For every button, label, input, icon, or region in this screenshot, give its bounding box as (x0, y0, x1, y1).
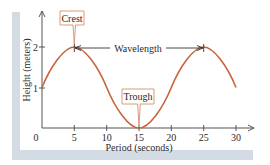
y-axis-label: Height (meters) (21, 38, 33, 101)
x-axis-label: Period (seconds) (106, 142, 173, 154)
x-tick-label: 30 (231, 132, 241, 143)
y-tick-label: 2 (33, 42, 38, 53)
y-tick-labels: 2 1 (33, 42, 38, 94)
wavelength-label: Wavelength (114, 43, 162, 54)
wavelength-indicator: Wavelength (74, 43, 203, 54)
wave-chart: 0 5 10 15 20 25 30 2 1 Period (seconds) … (0, 0, 270, 165)
crest-callout: Crest (60, 11, 84, 44)
y-tick-label: 1 (33, 83, 38, 94)
crest-label: Crest (61, 13, 82, 24)
trough-label: Trough (123, 91, 152, 102)
x-tick-label: 5 (72, 132, 77, 143)
x-tick-label: 0 (34, 132, 39, 143)
x-tick-label: 25 (199, 132, 209, 143)
